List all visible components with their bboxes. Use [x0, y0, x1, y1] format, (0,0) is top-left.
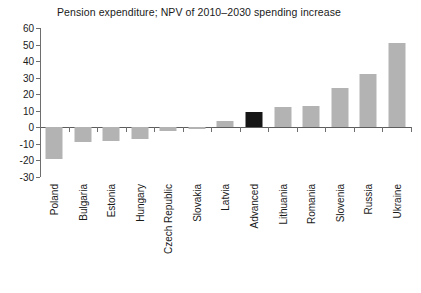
x-axis-category-label: Hungary: [134, 184, 145, 222]
bar-slot: [211, 28, 240, 177]
x-axis-category-label: Advanced: [249, 184, 260, 228]
x-axis-category-label: Slovenia: [334, 184, 345, 222]
bar-slot: [183, 28, 212, 177]
x-axis-tick: [382, 127, 383, 132]
x-label-slot: Estonia: [97, 184, 126, 293]
bar-slot: [40, 28, 69, 177]
bar-slot: [97, 28, 126, 177]
bar: [188, 127, 205, 129]
bar: [360, 74, 377, 127]
bar-slot: [268, 28, 297, 177]
x-axis-category-label: Russia: [363, 184, 374, 215]
bar: [46, 127, 63, 158]
x-axis-tick: [69, 127, 70, 132]
bar-slot: [325, 28, 354, 177]
x-axis-category-label: Lithuania: [277, 184, 288, 225]
x-axis-tick: [154, 127, 155, 132]
bar: [246, 112, 263, 127]
x-label-slot: Ukraine: [382, 184, 411, 293]
bar: [217, 121, 234, 128]
x-label-slot: Advanced: [240, 184, 269, 293]
x-label-slot: Latvia: [211, 184, 240, 293]
x-label-slot: Lithuania: [268, 184, 297, 293]
y-axis-tick-label: 40: [0, 56, 34, 67]
x-label-slot: Slovenia: [325, 184, 354, 293]
y-axis-tick-label: 50: [0, 39, 34, 50]
bar-chart: Pension expenditure; NPV of 2010–2030 sp…: [0, 0, 421, 293]
bar: [131, 127, 148, 139]
x-label-slot: Hungary: [126, 184, 155, 293]
x-axis-category-label: Romania: [306, 184, 317, 224]
bar: [160, 127, 177, 130]
x-axis-tick: [268, 127, 269, 132]
bar-series: [40, 28, 411, 177]
y-axis-tick-label: 0: [0, 122, 34, 133]
x-axis-category-labels: PolandBulgariaEstoniaHungaryCzech Republ…: [40, 184, 411, 293]
y-axis-tick-label: 10: [0, 105, 34, 116]
y-axis-tick-label: 30: [0, 72, 34, 83]
x-label-slot: Russia: [354, 184, 383, 293]
x-axis-tick: [411, 127, 412, 132]
bar: [388, 43, 405, 127]
y-axis-tick: [36, 177, 40, 178]
bar-slot: [354, 28, 383, 177]
x-axis-tick: [354, 127, 355, 132]
bar-slot: [382, 28, 411, 177]
bar-slot: [69, 28, 98, 177]
bar: [303, 106, 320, 128]
x-axis-tick: [183, 127, 184, 132]
x-axis-category-label: Slovakia: [191, 184, 202, 222]
x-axis-tick: [297, 127, 298, 132]
x-axis-tick: [40, 127, 41, 132]
x-axis-tick: [126, 127, 127, 132]
bar: [331, 88, 348, 128]
plot-area: 6050403020100-10-20-30: [40, 28, 411, 177]
x-label-slot: Bulgaria: [69, 184, 98, 293]
x-label-slot: Poland: [40, 184, 69, 293]
bar: [274, 107, 291, 127]
x-label-slot: Romania: [297, 184, 326, 293]
x-axis-tick: [211, 127, 212, 132]
y-axis-tick-label: -30: [0, 172, 34, 183]
y-axis-tick-label: -20: [0, 155, 34, 166]
x-axis-category-label: Poland: [49, 184, 60, 215]
x-axis-category-label: Latvia: [220, 184, 231, 211]
x-axis-tick: [325, 127, 326, 132]
y-axis-tick-label: 20: [0, 89, 34, 100]
chart-title: Pension expenditure; NPV of 2010–2030 sp…: [57, 6, 341, 18]
y-axis-tick-label: -10: [0, 138, 34, 149]
bar-slot: [126, 28, 155, 177]
bar-slot: [240, 28, 269, 177]
x-axis-category-label: Czech Republic: [163, 184, 174, 254]
bar: [103, 127, 120, 140]
bar-slot: [297, 28, 326, 177]
x-axis-category-label: Ukraine: [391, 184, 402, 218]
x-axis-tick: [240, 127, 241, 132]
bar: [74, 127, 91, 142]
x-axis-tick: [97, 127, 98, 132]
x-axis-category-label: Estonia: [106, 184, 117, 217]
x-label-slot: Czech Republic: [154, 184, 183, 293]
x-label-slot: Slovakia: [183, 184, 212, 293]
x-axis-category-label: Bulgaria: [77, 184, 88, 221]
bar-slot: [154, 28, 183, 177]
y-axis-tick-label: 60: [0, 23, 34, 34]
